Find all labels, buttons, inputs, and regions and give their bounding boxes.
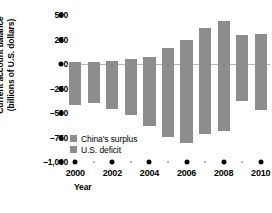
x-axis-tick-label: 2004: [140, 168, 159, 178]
chart-figure: Current account balance (billions of U.S…: [0, 0, 272, 213]
y-axis-tick-dot: [59, 62, 64, 67]
y-axis-tick-dot: [59, 13, 64, 18]
x-axis-minor-tick-dot: [204, 161, 206, 163]
y-axis-tick-dot: [59, 160, 64, 165]
bar: [218, 21, 230, 131]
legend-item: China's surplus: [70, 133, 137, 144]
bar: [125, 59, 137, 115]
y-axis-tick-dot: [59, 86, 64, 91]
x-axis-minor-tick-dot: [241, 161, 243, 163]
x-axis-title: Year: [74, 182, 92, 192]
x-axis-tick-label: 2000: [66, 168, 85, 178]
legend-swatch-icon: [70, 135, 77, 142]
x-axis-minor-tick-dot: [167, 161, 169, 163]
x-axis-tick-dot: [110, 160, 115, 165]
y-axis-tick-dot: [59, 135, 64, 140]
bar: [199, 28, 211, 135]
y-axis-title: Current account balance (billions of U.S…: [0, 4, 25, 126]
bar: [162, 48, 174, 137]
bar: [180, 40, 192, 144]
x-axis-tick-dot: [184, 160, 189, 165]
x-axis-tick-dot: [73, 160, 78, 165]
bar: [236, 35, 248, 101]
y-axis-title-line-2: (billions of U.S. dollars): [6, 4, 17, 126]
bar: [88, 62, 100, 103]
bar: [255, 34, 267, 110]
y-axis-title-line-1: Current account balance: [0, 4, 6, 126]
x-axis-minor-tick-dot: [93, 161, 95, 163]
legend-item-label: U.S. deficit: [81, 145, 121, 155]
x-axis-tick-dot: [147, 160, 152, 165]
legend-swatch-icon: [70, 146, 77, 153]
bar: [106, 61, 118, 109]
chart-legend: China's surplusU.S. deficit: [70, 133, 137, 155]
legend-item: U.S. deficit: [70, 144, 137, 155]
bar: [69, 62, 81, 105]
x-axis-tick-label: 2006: [177, 168, 196, 178]
x-axis-tick-dot: [258, 160, 263, 165]
legend-item-label: China's surplus: [81, 134, 137, 144]
x-axis-tick-label: 2008: [214, 168, 233, 178]
x-axis-tick-dot: [221, 160, 226, 165]
x-axis-tick-label: 2010: [251, 168, 270, 178]
y-axis-tick-dot: [59, 37, 64, 42]
x-axis-tick-label: 2002: [103, 168, 122, 178]
x-axis-minor-tick-dot: [130, 161, 132, 163]
y-axis-tick-dot: [59, 111, 64, 116]
bar: [143, 57, 155, 126]
